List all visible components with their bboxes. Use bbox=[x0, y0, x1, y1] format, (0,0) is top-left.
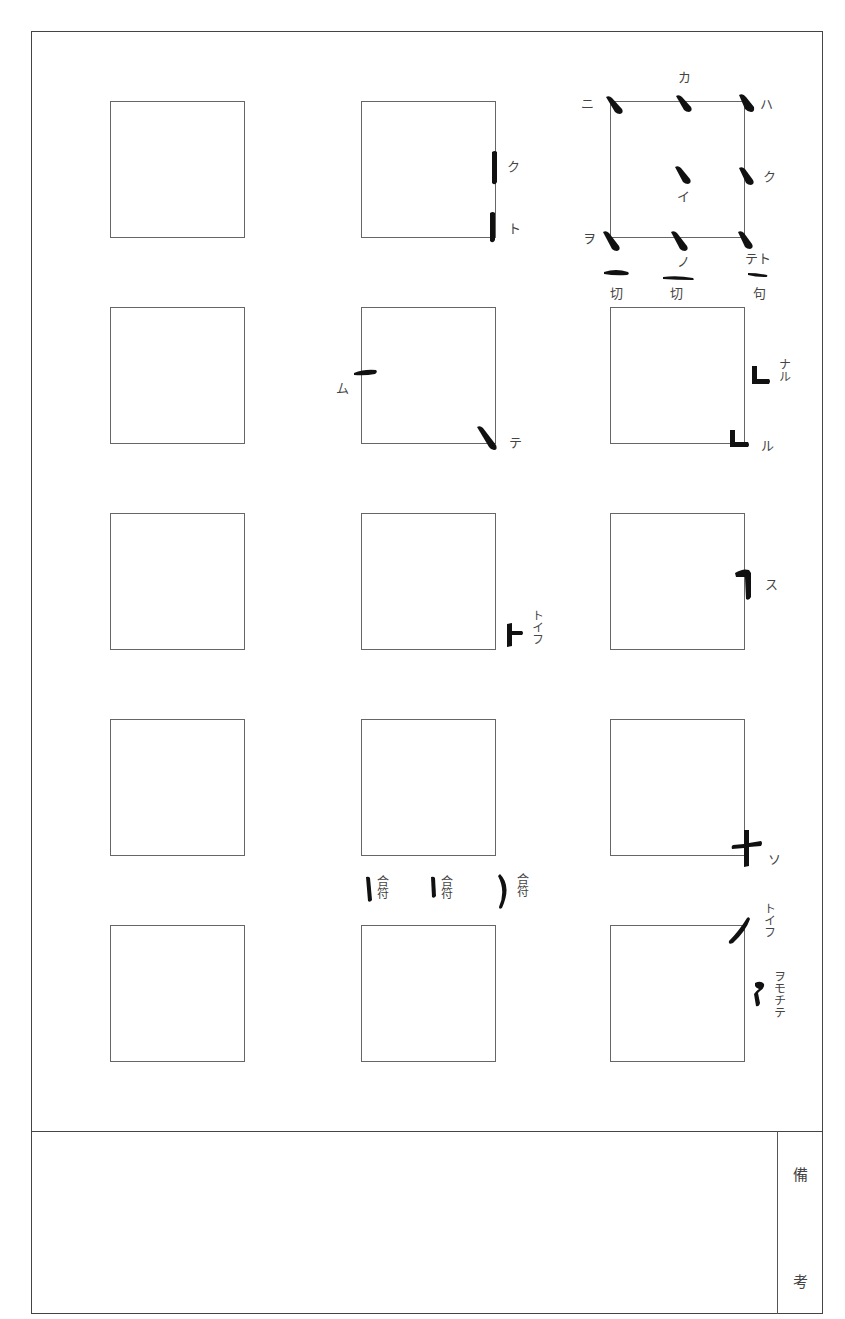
dot-mark-wo bbox=[603, 231, 620, 251]
dash-mark-setsu1 bbox=[604, 270, 629, 275]
label-wo: ヲ bbox=[583, 232, 596, 245]
label-ku-phrase: 句 bbox=[753, 287, 766, 300]
dot-mark-ha bbox=[739, 94, 754, 112]
dot-mark-no bbox=[671, 231, 688, 251]
gofu-mark-2 bbox=[431, 877, 436, 898]
label-b1-ku: ク bbox=[507, 160, 520, 173]
label-ka: カ bbox=[678, 71, 691, 84]
label-gofu-2: 合符 bbox=[439, 875, 452, 899]
label-b3-naru: ナル bbox=[777, 358, 790, 382]
ink-marks-layer bbox=[0, 0, 845, 1319]
dash-mark-ku-phrase bbox=[748, 273, 767, 277]
label-b3-ru: ル bbox=[761, 439, 774, 452]
stroke-mark-ru bbox=[730, 430, 749, 447]
label-c2-toifu: トイフ bbox=[530, 609, 543, 645]
label-ha: ハ bbox=[760, 98, 773, 111]
label-teto: テト bbox=[745, 252, 771, 265]
stroke-mark-womochite bbox=[754, 982, 764, 1006]
stroke-mark-toifu-e3 bbox=[729, 917, 750, 943]
stroke-mark-ku bbox=[492, 151, 497, 184]
stroke-mark-su bbox=[735, 569, 751, 599]
stroke-mark-naru bbox=[752, 366, 770, 384]
dot-mark-ku bbox=[739, 167, 754, 185]
label-ni: ニ bbox=[581, 97, 594, 110]
gofu-mark-1 bbox=[366, 877, 372, 902]
stroke-mark-mu bbox=[354, 370, 377, 376]
label-b2-mu: ム bbox=[336, 382, 349, 395]
dot-mark-ni bbox=[606, 96, 623, 114]
label-b2-te: テ bbox=[509, 436, 522, 449]
dot-mark-i bbox=[675, 166, 691, 184]
label-e3-toifu: トイフ bbox=[762, 902, 775, 938]
dot-mark-teto bbox=[738, 231, 753, 249]
label-no: ノ bbox=[677, 255, 690, 268]
label-gofu-1: 合符 bbox=[375, 875, 388, 899]
dot-mark-ka bbox=[676, 95, 692, 112]
gofu-mark-3 bbox=[498, 874, 507, 909]
label-ku-right: ク bbox=[763, 170, 776, 183]
label-i: イ bbox=[677, 190, 690, 203]
stroke-mark-toifu-c2 bbox=[507, 623, 523, 647]
stroke-mark-to bbox=[490, 212, 495, 242]
label-c3-su: ス bbox=[765, 578, 778, 591]
label-e3-womochite: ヲモチテ bbox=[772, 970, 785, 1018]
label-gofu-3: 合符 bbox=[515, 873, 528, 897]
label-d3-so: ソ bbox=[768, 853, 781, 866]
label-setsu-2: 切 bbox=[670, 287, 683, 300]
dash-mark-setsu2 bbox=[663, 276, 694, 280]
stroke-mark-te bbox=[477, 426, 497, 450]
label-b1-to: ト bbox=[508, 222, 521, 235]
label-setsu-1: 切 bbox=[610, 287, 623, 300]
stroke-mark-so bbox=[732, 830, 762, 867]
